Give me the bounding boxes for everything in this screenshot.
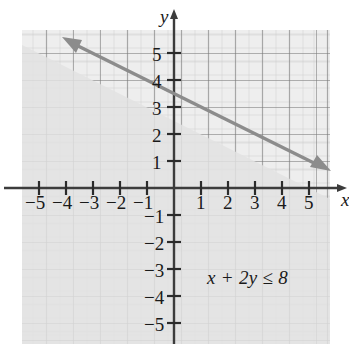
y-tick-label-4: 4 <box>152 72 162 91</box>
inequality-annotation: x + 2y ≤ 8 <box>207 268 288 287</box>
y-axis-arrowhead <box>170 9 178 19</box>
y-axis-label: y <box>160 7 168 26</box>
x-tick-label-neg1: −1 <box>133 193 153 212</box>
y-tick-label-neg5: −5 <box>144 315 164 334</box>
x-tick-label-5: 5 <box>304 193 314 212</box>
y-tick-label-2: 2 <box>152 126 162 145</box>
x-tick-label-1: 1 <box>196 193 206 212</box>
graph-figure: y x 5 4 3 2 1 −1 −2 −3 −4 −5 −5 −4 −3 −2… <box>0 0 349 344</box>
line-arrowhead-right <box>310 155 331 171</box>
y-tick-label-neg3: −3 <box>144 261 164 280</box>
y-tick-label-1: 1 <box>152 153 162 172</box>
x-axis-label: x <box>341 190 349 209</box>
x-tick-label-neg5: −5 <box>25 193 45 212</box>
y-tick-label-5: 5 <box>152 45 162 64</box>
line-arrowhead-left <box>62 37 82 53</box>
y-tick-label-neg2: −2 <box>144 234 164 253</box>
x-tick-label-neg4: −4 <box>52 193 72 212</box>
y-tick-label-3: 3 <box>152 99 162 118</box>
x-tick-label-neg2: −2 <box>106 193 126 212</box>
x-tick-label-4: 4 <box>277 193 287 212</box>
y-tick-label-neg4: −4 <box>144 288 164 307</box>
graph-overlay <box>0 0 349 344</box>
x-tick-label-2: 2 <box>223 193 233 212</box>
x-tick-label-neg3: −3 <box>79 193 99 212</box>
x-tick-label-3: 3 <box>250 193 260 212</box>
